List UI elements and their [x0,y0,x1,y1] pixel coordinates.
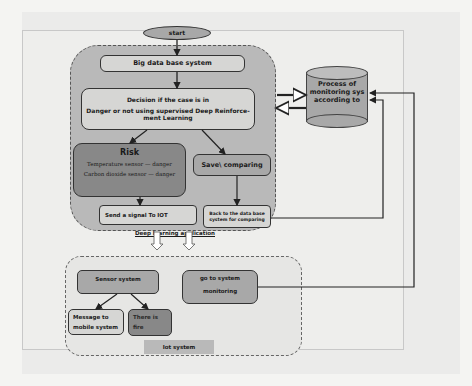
connector-lines [0,0,472,386]
